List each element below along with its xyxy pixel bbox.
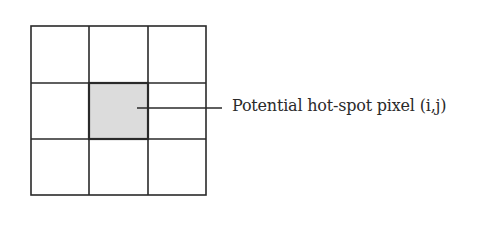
- highlighted-center-cell: [89, 83, 148, 139]
- annotation-label: Potential hot-spot pixel (i,j): [232, 96, 446, 115]
